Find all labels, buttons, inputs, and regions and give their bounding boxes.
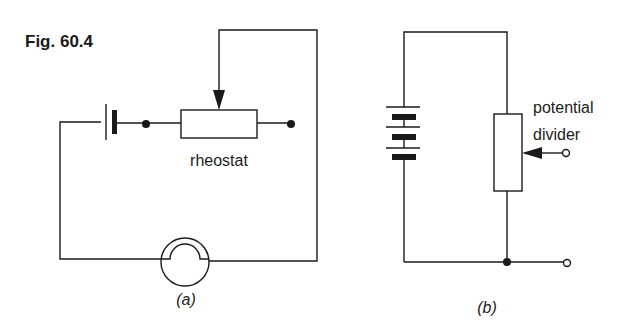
figure-canvas: Fig. 60.4 rheostat (a) <box>0 0 639 334</box>
divider-resistor <box>494 114 522 191</box>
divider-label-line2: divider <box>533 126 581 143</box>
wire-top <box>404 32 507 114</box>
divider-slider-arrow <box>522 147 542 159</box>
lamp-filament <box>162 244 209 259</box>
figure-title: Fig. 60.4 <box>25 32 94 51</box>
rheostat-slider-arrow <box>213 90 225 110</box>
battery-short-plate-1 <box>392 114 416 120</box>
divider-label-line1: potential <box>533 99 594 116</box>
junction-dot-left <box>142 120 150 128</box>
caption-a: (a) <box>176 291 196 308</box>
battery-short-plate-2 <box>392 134 416 140</box>
junction-dot-bottom <box>503 258 511 266</box>
output-terminal-bottom <box>564 260 571 267</box>
rheostat-label: rheostat <box>190 152 248 169</box>
rheostat-resistor <box>181 110 257 138</box>
circuit-a <box>60 30 317 286</box>
junction-dot-right <box>287 120 295 128</box>
caption-b: (b) <box>477 299 497 316</box>
circuit-b <box>386 32 571 267</box>
lamp-bulb <box>161 238 209 286</box>
wire-left-loop <box>60 122 162 259</box>
battery-short-plate-3 <box>392 154 416 160</box>
wire-top-loop <box>209 30 317 261</box>
cell-short-plate <box>112 110 117 134</box>
output-terminal-top <box>563 150 570 157</box>
